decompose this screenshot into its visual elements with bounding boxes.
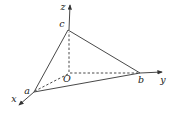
label-x: x (11, 93, 17, 104)
label-a: a (24, 85, 30, 96)
label-c: c (59, 18, 65, 29)
label-b: b (138, 74, 144, 85)
y-axis (140, 72, 162, 73)
edge-a-b (34, 73, 140, 92)
label-z: z (59, 1, 66, 12)
edge-c-b (68, 30, 140, 73)
label-y: y (159, 74, 166, 85)
label-O: O (63, 73, 71, 84)
diagram-svg: zcOaxby (0, 0, 176, 120)
coordinate-geometry-diagram: zcOaxby (0, 0, 176, 120)
z-axis (69, 5, 70, 30)
